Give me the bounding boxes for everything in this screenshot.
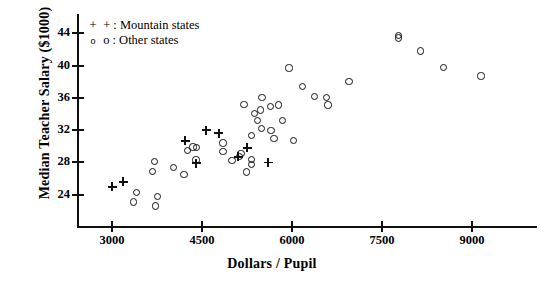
legend-item-other-states: o o : Other states — [86, 33, 199, 48]
legend-label-other-states: o : Other states — [103, 33, 178, 47]
legend-label-mountain-states: + : Mountain states — [103, 18, 199, 32]
legend: + + : Mountain states o o : Other states — [86, 18, 199, 48]
scatter-plot-figure: 242832364044 30004500600075009000 Median… — [0, 0, 544, 286]
plus-marker-icon: + — [86, 18, 100, 33]
circle-marker-icon: o — [86, 33, 100, 48]
legend-item-mountain-states: + + : Mountain states — [86, 18, 199, 33]
plot-area — [0, 0, 544, 286]
